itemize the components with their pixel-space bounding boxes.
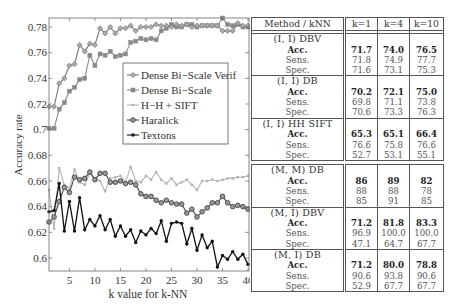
data-point-marker: [149, 227, 152, 230]
data-point-marker: [150, 179, 152, 181]
metric-value: 74.0: [378, 45, 410, 55]
data-point-marker: [68, 200, 71, 203]
data-point-marker: [58, 167, 60, 169]
header-k10: k=10: [410, 18, 444, 31]
results-table: Method / kNN k=1 k=4 k=10 (I, I) DBVAcc.…: [251, 17, 444, 292]
metric-value: 75.8: [378, 140, 410, 150]
data-point-marker: [73, 229, 76, 232]
data-point-marker: [73, 168, 75, 170]
data-point-marker: [185, 242, 188, 245]
data-point-marker: [103, 228, 106, 231]
data-point-marker: [230, 204, 235, 209]
data-point-marker: [165, 240, 168, 243]
legend-marker-icon: [131, 118, 136, 123]
data-point-marker: [154, 22, 159, 27]
metric-label: Acc.: [252, 129, 345, 139]
data-point-marker: [72, 175, 77, 180]
y-tick-label: 0.64: [28, 200, 48, 212]
x-tick-label: 10: [89, 274, 101, 286]
data-point-marker: [160, 219, 163, 222]
data-point-marker: [57, 107, 61, 111]
metric-value: 71.8: [345, 55, 378, 65]
metric-value: 64.7: [378, 239, 410, 250]
metric-value: 47.1: [345, 239, 378, 250]
metric-value: 71.2: [345, 260, 378, 270]
metric-value: 71.1: [378, 97, 410, 107]
empty-cell: [410, 207, 444, 218]
data-point-marker: [67, 63, 72, 68]
data-point-marker: [159, 23, 164, 28]
data-point-marker: [139, 229, 142, 232]
method-group-title: (I, I) HH SIFT: [252, 118, 345, 129]
accuracy-line-chart: 0.60.620.640.660.680.70.720.740.760.78 5…: [0, 0, 250, 307]
table-row: Sens.76.675.876.6: [252, 140, 444, 150]
data-point-marker: [139, 192, 144, 197]
data-point-marker: [139, 37, 143, 41]
data-point-marker: [109, 218, 112, 221]
data-point-marker: [174, 202, 179, 207]
metric-value: 81.8: [378, 218, 410, 228]
metric-label: Acc.: [252, 176, 345, 186]
data-point-marker: [118, 53, 122, 57]
data-point-marker: [179, 202, 184, 207]
x-axis-ticks: 510152025303540: [67, 18, 250, 286]
group-title-row: (M, M) DB: [252, 165, 444, 176]
data-point-marker: [72, 62, 77, 67]
empty-cell: [345, 165, 378, 176]
data-point-marker: [98, 171, 103, 176]
data-point-marker: [129, 166, 131, 168]
data-point-marker: [169, 201, 174, 206]
y-tick-label: 0.66: [28, 175, 48, 187]
empty-cell: [410, 34, 444, 45]
data-point-marker: [114, 234, 117, 237]
data-point-marker: [143, 24, 148, 29]
data-point-marker: [62, 101, 66, 105]
metric-value: 53.1: [378, 150, 410, 161]
table-row: Acc.868982: [252, 176, 444, 186]
metric-value: 100.0: [410, 228, 444, 238]
data-point-marker: [113, 180, 118, 185]
header-k1: k=1: [345, 18, 378, 31]
metric-value: 89: [378, 176, 410, 186]
data-point-marker: [221, 179, 223, 181]
x-tick-label: 35: [217, 274, 229, 286]
data-point-marker: [88, 53, 92, 57]
metric-label: Sens.: [252, 228, 345, 238]
table-row: Spec.52.967.767.7: [252, 281, 444, 292]
legend-label: H−H + SIFT: [141, 99, 198, 111]
metric-value: 52.9: [345, 281, 378, 292]
metric-value: 93.8: [378, 271, 410, 281]
metric-value: 88: [345, 186, 378, 196]
metric-value: 76.5: [410, 45, 444, 55]
data-point-marker: [144, 233, 147, 236]
table-row: Acc.70.272.175.0: [252, 87, 444, 97]
x-axis-label: k value for k-NN: [109, 288, 189, 300]
empty-cell: [410, 76, 444, 87]
empty-cell: [345, 118, 378, 129]
metric-value: 70.6: [345, 107, 378, 118]
data-point-marker: [128, 180, 133, 185]
data-point-marker: [184, 211, 189, 216]
data-point-marker: [144, 194, 149, 199]
data-point-marker: [135, 180, 137, 182]
data-point-marker: [67, 190, 72, 195]
metric-value: 70.2: [345, 87, 378, 97]
data-point-marker: [206, 180, 208, 182]
data-point-marker: [52, 215, 57, 220]
empty-cell: [410, 249, 444, 260]
metric-value: 65.1: [378, 129, 410, 139]
data-point-marker: [124, 52, 128, 56]
data-point-marker: [88, 170, 93, 175]
legend-marker-icon: [131, 133, 134, 136]
data-point-marker: [235, 203, 240, 208]
data-point-marker: [124, 234, 127, 237]
data-point-marker: [103, 171, 108, 176]
metric-value: 78.8: [410, 260, 444, 270]
data-point-marker: [154, 198, 159, 203]
data-point-marker: [93, 64, 97, 68]
legend-marker-icon: [132, 104, 134, 106]
table-row: Spec.859185: [252, 196, 444, 207]
data-point-marker: [155, 171, 157, 173]
metric-label: Sens.: [252, 271, 345, 281]
data-point-marker: [83, 76, 87, 80]
